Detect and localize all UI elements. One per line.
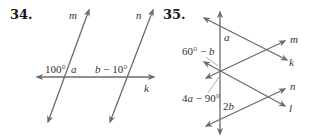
line-label-n: n [290, 80, 296, 92]
angle-60-minus-b: 60° − b [182, 45, 215, 57]
angle-4a-minus-90: 4a − 90° [182, 92, 220, 104]
angle-a: a [224, 31, 230, 43]
line-label-m: m [69, 9, 77, 21]
problem-number: 35. [163, 7, 186, 22]
line-label-k: k [144, 82, 150, 94]
line-label-n: n [136, 9, 142, 21]
line-label-l: l [289, 102, 292, 114]
line-label-m: m [290, 33, 298, 45]
angle-a: a [71, 63, 77, 75]
angle-2b: 2b [223, 100, 235, 112]
problem-35: 35. m k n l a 60° − b 4a − 90° 2b [163, 7, 298, 134]
problem-34: 34. m n k 100° a b − 10° [10, 7, 154, 122]
geometry-figure: 34. m n k 100° a b − 10° 35. m k n l a 6… [0, 0, 313, 140]
leader-line-lower [208, 77, 219, 93]
line-k [204, 18, 287, 60]
line-label-k: k [289, 56, 295, 68]
angle-b-minus-10: b − 10° [95, 63, 128, 75]
line-m [206, 41, 285, 78]
angle-100: 100° [45, 63, 66, 75]
problem-number: 34. [10, 7, 33, 22]
